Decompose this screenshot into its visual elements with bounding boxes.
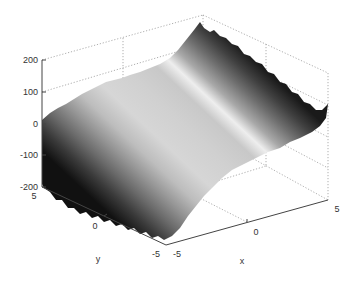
z-tick: 200 xyxy=(23,55,38,65)
z-tick: 0 xyxy=(33,119,38,129)
x-axis-label: x xyxy=(240,256,245,266)
y-tick: 0 xyxy=(92,221,97,231)
x-tick: 5 xyxy=(334,204,339,214)
z-tick: -100 xyxy=(20,150,38,160)
x-tick: 0 xyxy=(253,227,258,237)
x-tick-labels: -5 0 5 xyxy=(173,204,340,259)
z-tick: 100 xyxy=(23,87,38,97)
y-tick: -5 xyxy=(152,249,160,259)
surface-plot: 200 100 0 -100 -200 5 0 -5 y -5 0 5 x xyxy=(0,0,356,281)
x-tick: -5 xyxy=(173,249,181,259)
y-tick: 5 xyxy=(31,191,36,201)
z-tick-labels: 200 100 0 -100 -200 xyxy=(20,55,38,192)
y-axis-label: y xyxy=(96,254,101,264)
